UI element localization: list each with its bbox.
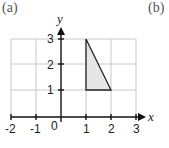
axes <box>11 34 140 122</box>
x-tick-label: -2 <box>5 122 16 136</box>
x-tick-label: -1 <box>30 122 41 136</box>
y-axis-arrow-icon <box>57 27 65 35</box>
x-axis-arrow-icon <box>138 113 146 121</box>
y-tick-label: 2 <box>47 58 54 72</box>
origin-label: 0 <box>51 119 58 133</box>
x-tick-label: 2 <box>108 122 115 136</box>
y-tick-label: 3 <box>47 32 54 46</box>
x-tick-label: 3 <box>133 122 140 136</box>
x-axis-label: x <box>147 109 154 124</box>
grid <box>11 39 136 117</box>
y-axis-label: y <box>55 11 63 26</box>
y-tick-label: 1 <box>47 83 54 97</box>
x-tick-label: 1 <box>83 122 90 136</box>
coordinate-plane: x y -2 -1 0 1 2 3 1 2 3 <box>0 0 169 148</box>
